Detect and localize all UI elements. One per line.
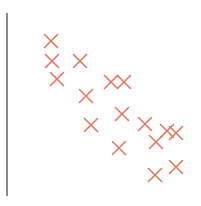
- plot-canvas: [0, 0, 201, 206]
- scatter-plot-figure: Scatter plot fragment with salmon X mark…: [0, 0, 201, 206]
- plot-background: [0, 0, 201, 206]
